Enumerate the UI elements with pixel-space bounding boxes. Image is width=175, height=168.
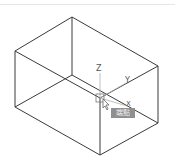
snap-tooltip: 端點 (111, 108, 135, 118)
drawing-viewport[interactable]: Z Y X (0, 0, 175, 168)
x-axis-label: X (126, 100, 131, 108)
y-axis-label: Y (124, 76, 130, 85)
wireframe-box (15, 17, 158, 155)
z-axis-label: Z (96, 64, 102, 73)
